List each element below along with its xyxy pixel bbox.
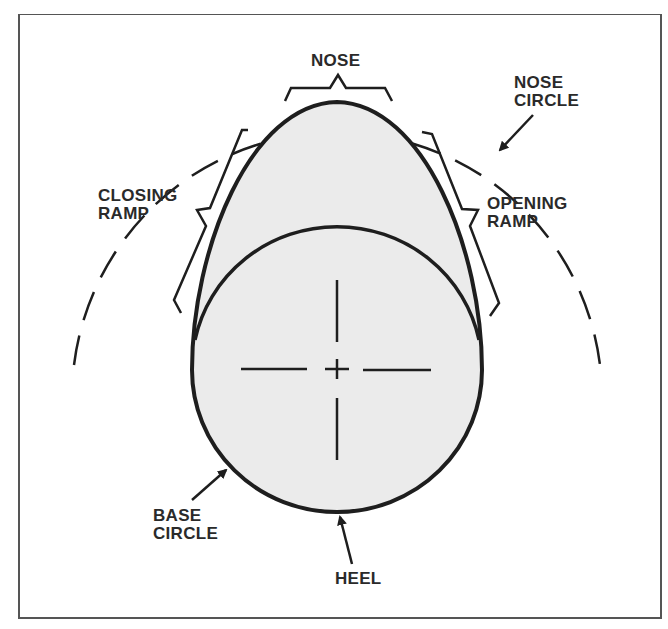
nose-circle-arrow bbox=[500, 115, 533, 150]
closing-ramp-label: CLOSING RAMP bbox=[98, 187, 178, 223]
heel-label: HEEL bbox=[335, 570, 382, 588]
heel-arrow bbox=[340, 517, 352, 564]
base-circle-arrow bbox=[192, 470, 226, 500]
opening-ramp-label: OPENING RAMP bbox=[487, 195, 568, 231]
nose-brace bbox=[285, 75, 392, 101]
base-circle-label: BASE CIRCLE bbox=[153, 507, 218, 543]
nose-label: NOSE bbox=[311, 52, 360, 70]
nose-circle-label: NOSE CIRCLE bbox=[514, 74, 579, 110]
